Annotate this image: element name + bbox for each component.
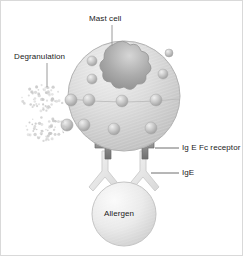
granule-particle (45, 110, 47, 112)
granule-particle (51, 137, 54, 140)
granule-particle (35, 103, 37, 105)
granule-particle (33, 133, 36, 136)
granule-particle (45, 105, 47, 107)
granule-particle (21, 97, 23, 99)
granule-particle (34, 91, 37, 94)
label-mast-cell: Mast cell (89, 14, 121, 23)
granule-particle (51, 117, 54, 120)
granule-particle (53, 128, 55, 130)
granule-particle (40, 130, 42, 132)
granule-particle (40, 98, 43, 101)
granule-particle (32, 118, 34, 120)
granule-particle (63, 132, 65, 134)
granule-particle (42, 140, 44, 142)
granule-particle (28, 94, 30, 96)
granule-particle (55, 100, 58, 103)
granule-particle (45, 86, 47, 88)
granule-particle (25, 125, 27, 127)
granule-particle (27, 133, 30, 136)
label-degranulation: Degranulation (14, 52, 65, 61)
granule-particle (35, 85, 38, 88)
label-ige: IgE (182, 168, 194, 177)
granule-particle (45, 138, 48, 141)
granule-particle (51, 93, 54, 96)
granule-particle (35, 123, 37, 125)
granule-particle (40, 116, 43, 119)
granule (150, 94, 162, 106)
granule-particle (43, 88, 46, 91)
granule-particle (38, 94, 41, 97)
granule-particle (47, 129, 49, 131)
granule (83, 94, 95, 106)
granule-particle (50, 124, 53, 127)
granule-particle (40, 123, 43, 126)
granule (165, 49, 173, 57)
granule-particle (37, 137, 40, 140)
released-granule-particles (21, 84, 66, 142)
granule-particle (54, 126, 56, 128)
granule-particle (57, 133, 60, 136)
granule (87, 56, 97, 66)
granule-particle (58, 99, 61, 102)
granule (78, 119, 90, 131)
granule (145, 122, 157, 134)
granule-particle (48, 120, 51, 123)
granule-particle (48, 92, 51, 95)
granule-particle (32, 106, 34, 108)
granule-particle (29, 122, 31, 124)
granule-particle (33, 99, 34, 100)
granule-particle (40, 132, 43, 135)
granule-particle (51, 86, 54, 89)
granule-particle (34, 125, 37, 128)
granule-particle (42, 107, 44, 109)
granule-particle (57, 91, 59, 93)
granule-particle (60, 121, 62, 123)
granule-particle (47, 108, 49, 110)
granule-particle (41, 84, 43, 86)
granule-particle (30, 90, 33, 93)
granule-particle (23, 102, 26, 105)
granule-particle (42, 130, 43, 131)
granule-particle (50, 89, 52, 91)
granule-particle (32, 130, 34, 132)
label-allergen: Allergen (104, 209, 134, 218)
granule-particle (54, 133, 57, 136)
granule-particle (29, 103, 32, 106)
granule-particle (61, 102, 63, 104)
granule-particle (31, 123, 33, 125)
granule-particle (40, 110, 43, 113)
granule-particle (46, 100, 48, 102)
granule-particle (45, 129, 47, 131)
granule (108, 123, 120, 135)
granule-particle (36, 129, 38, 131)
granule-particle (57, 120, 60, 123)
granule-particle (49, 132, 52, 135)
mast-cell-diagram: Mast cell Degranulation Ig E Fc receptor… (0, 0, 243, 256)
label-ige-fc-receptor: Ig E Fc receptor (182, 143, 241, 152)
granule-particle (33, 127, 36, 130)
granule (158, 69, 168, 79)
granule-particle (62, 130, 63, 131)
granule-particle (34, 100, 36, 102)
granule (116, 95, 128, 107)
granule-particle (26, 129, 28, 131)
granule-particle (50, 103, 52, 105)
granule-particle (36, 105, 38, 107)
granule-particle (64, 127, 67, 130)
granule (87, 74, 97, 84)
granule-particle (28, 88, 31, 91)
granule-particle (38, 103, 40, 105)
granule-particle (38, 89, 40, 91)
granule-particle (51, 99, 54, 102)
granule-particle (42, 103, 44, 105)
